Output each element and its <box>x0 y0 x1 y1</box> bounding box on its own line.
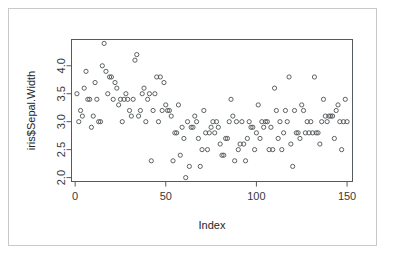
data-point <box>156 120 160 124</box>
data-point <box>180 125 184 129</box>
data-point <box>117 103 121 107</box>
data-point <box>77 120 81 124</box>
data-point <box>231 114 235 118</box>
data-point <box>291 164 295 168</box>
data-point <box>106 92 110 96</box>
data-point <box>269 125 273 129</box>
data-point <box>171 159 175 163</box>
data-point <box>262 125 266 129</box>
x-tick-label: 0 <box>72 190 78 202</box>
data-point <box>133 58 137 62</box>
data-point <box>336 103 340 107</box>
data-point <box>182 136 186 140</box>
data-point <box>245 136 249 140</box>
data-point <box>285 120 289 124</box>
data-point <box>287 75 291 79</box>
data-point <box>233 159 237 163</box>
data-point <box>153 92 157 96</box>
data-point <box>312 75 316 79</box>
data-point <box>95 97 99 101</box>
data-point <box>162 80 166 84</box>
data-point <box>185 120 189 124</box>
data-point <box>234 120 238 124</box>
data-point <box>176 103 180 107</box>
data-point <box>227 120 231 124</box>
data-point <box>93 80 97 84</box>
data-point <box>102 41 106 45</box>
data-point <box>280 148 284 152</box>
data-point <box>78 108 82 112</box>
data-point <box>104 69 108 73</box>
data-point <box>160 108 164 112</box>
data-point <box>200 148 204 152</box>
data-point <box>184 175 188 179</box>
x-tick-label: 100 <box>247 190 265 202</box>
data-point <box>187 164 191 168</box>
data-point <box>321 97 325 101</box>
plot-frame <box>72 40 353 182</box>
data-point <box>100 64 104 68</box>
data-point <box>194 120 198 124</box>
data-point <box>111 97 115 101</box>
data-point <box>340 148 344 152</box>
data-point <box>75 92 79 96</box>
data-point <box>205 148 209 152</box>
data-point <box>216 125 220 129</box>
data-point <box>334 108 338 112</box>
scatter-plot-canvas: 0501001502.02.53.03.54.0Indexiris$Sepal.… <box>0 0 394 261</box>
data-point <box>135 52 139 56</box>
data-point <box>289 142 293 146</box>
data-point <box>113 80 117 84</box>
r-plot-figure: 0501001502.02.53.03.54.0Indexiris$Sepal.… <box>0 0 394 261</box>
data-point <box>292 108 296 112</box>
data-point <box>298 136 302 140</box>
data-point <box>82 86 86 90</box>
data-point <box>129 114 133 118</box>
data-point <box>131 97 135 101</box>
data-point <box>146 97 150 101</box>
data-points <box>75 41 349 179</box>
data-point <box>89 125 93 129</box>
data-point <box>236 148 240 152</box>
data-point <box>318 142 322 146</box>
y-tick-label: 2.5 <box>56 142 68 157</box>
data-point <box>164 103 168 107</box>
data-point <box>320 120 324 124</box>
x-tick-label: 150 <box>338 190 356 202</box>
data-point <box>256 103 260 107</box>
data-point <box>120 120 124 124</box>
data-point <box>178 153 182 157</box>
data-point <box>209 125 213 129</box>
y-tick-label: 4.0 <box>56 58 68 73</box>
data-point <box>282 131 286 135</box>
data-point <box>254 131 258 135</box>
data-point <box>149 159 153 163</box>
data-point <box>169 114 173 118</box>
data-point <box>202 108 206 112</box>
y-tick-label: 3.0 <box>56 114 68 129</box>
data-point <box>80 114 84 118</box>
data-point <box>272 86 276 90</box>
data-point <box>144 120 148 124</box>
data-point <box>138 108 142 112</box>
data-point <box>142 86 146 90</box>
x-axis-title: Index <box>199 219 226 231</box>
x-axis <box>75 182 347 187</box>
x-tick-label: 50 <box>160 190 172 202</box>
axis-labels: 0501001502.02.53.03.54.0Indexiris$Sepal.… <box>25 58 356 230</box>
data-point <box>136 114 140 118</box>
data-point <box>276 136 280 140</box>
data-point <box>213 131 217 135</box>
data-point <box>274 108 278 112</box>
data-point <box>124 92 128 96</box>
data-point <box>247 120 251 124</box>
data-point <box>140 92 144 96</box>
data-point <box>151 108 155 112</box>
data-point <box>332 136 336 140</box>
y-tick-label: 2.0 <box>56 170 68 185</box>
data-point <box>127 108 131 112</box>
y-tick-label: 3.5 <box>56 86 68 101</box>
data-point <box>301 108 305 112</box>
data-point <box>253 148 257 152</box>
data-point <box>258 136 262 140</box>
